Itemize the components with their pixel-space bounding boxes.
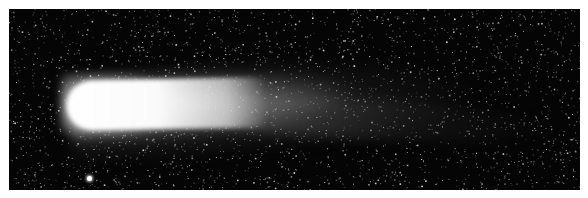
comet-coma: [67, 77, 268, 130]
comet-photograph: [9, 9, 580, 190]
bright-star: [87, 176, 92, 181]
